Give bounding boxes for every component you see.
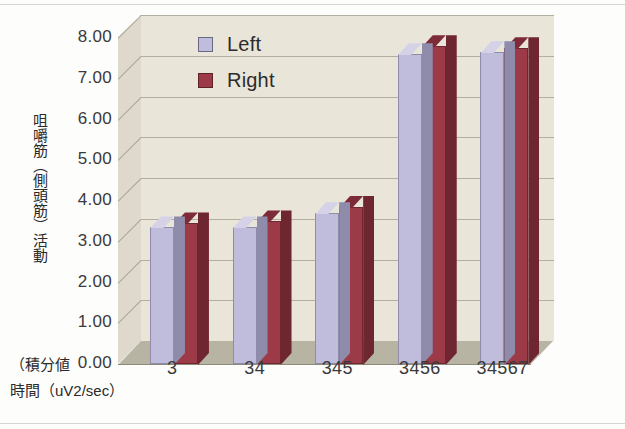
y-axis-tick-label: 4.00 [78, 190, 112, 210]
x-axis-caption-line-1: （積分値 [10, 352, 124, 378]
x-axis-tick-label: 34567 [463, 358, 543, 379]
y-axis-tick-label: 6.00 [78, 109, 112, 129]
y-axis-tick-label: 8.00 [78, 27, 112, 47]
bar-group [118, 15, 553, 355]
x-axis-caption-line-2: 時間（uV2/sec） [10, 378, 124, 404]
bar-front-face [480, 52, 504, 364]
y-axis-tick-label: 5.00 [78, 149, 112, 169]
y-axis-title: 咀嚼筋（側頭筋）活動 [18, 96, 48, 280]
plot-area: Left Right [118, 15, 553, 355]
x-axis-tick-label: 345 [297, 358, 377, 379]
x-axis-tick-label: 3 [132, 358, 212, 379]
x-axis-tick-label: 3456 [380, 358, 460, 379]
bar-left-34567 [480, 41, 504, 364]
legend-item-right: Right [198, 69, 275, 92]
legend-label-right: Right [227, 69, 275, 92]
bar-side-face [504, 41, 515, 365]
legend-swatch-left [198, 37, 213, 52]
bar-side-face [528, 37, 539, 365]
chart-page: 咀嚼筋（側頭筋）活動 8.007.006.005.004.003.002.001… [0, 0, 625, 429]
legend-item-left: Left [198, 33, 275, 56]
y-axis-tick-label: 7.00 [78, 68, 112, 88]
x-axis-tick-labels: 334345345634567 [118, 358, 553, 384]
y-axis-tick-label: 2.00 [78, 272, 112, 292]
x-axis-tick-label: 34 [215, 358, 295, 379]
legend-swatch-right [198, 73, 213, 88]
chart-legend: Left Right [198, 33, 275, 105]
y-axis-tick-label: 3.00 [78, 231, 112, 251]
x-axis-caption: （積分値 時間（uV2/sec） [10, 352, 124, 404]
y-axis-tick-label: 1.00 [78, 312, 112, 332]
legend-label-left: Left [227, 33, 261, 56]
